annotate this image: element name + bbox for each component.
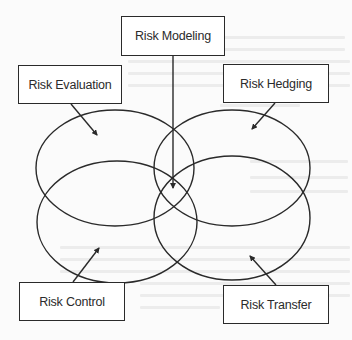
evaluation-connector-arrow [71, 104, 97, 135]
control-connector-arrow [73, 248, 99, 282]
risk-transfer-label: Risk Transfer [240, 298, 311, 312]
risk-evaluation-label: Risk Evaluation [28, 78, 111, 92]
evaluation-region-ellipse [36, 110, 194, 226]
risk-control-label: Risk Control [39, 295, 105, 309]
risk-transfer-box: Risk Transfer [223, 285, 329, 324]
transfer-connector-arrow [250, 256, 276, 285]
risk-hedging-label: Risk Hedging [240, 77, 312, 91]
risk-modeling-box: Risk Modeling [121, 16, 225, 56]
risk-control-box: Risk Control [19, 282, 125, 321]
risk-hedging-box: Risk Hedging [223, 64, 329, 103]
risk-evaluation-box: Risk Evaluation [18, 65, 122, 104]
risk-modeling-label: Risk Modeling [135, 29, 211, 43]
hedging-connector-arrow [252, 103, 275, 129]
transfer-region-ellipse [154, 156, 310, 280]
hedging-region-ellipse [154, 110, 310, 226]
